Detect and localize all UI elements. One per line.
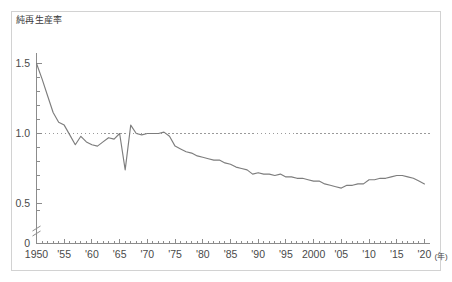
x-tick-label: '55 bbox=[55, 248, 73, 260]
x-axis-unit-label: (年) bbox=[434, 250, 447, 261]
x-tick-label: '20 bbox=[415, 248, 433, 260]
x-tick-label: 2000 bbox=[299, 248, 329, 260]
series-line-net-reproduction-rate bbox=[37, 64, 425, 189]
x-tick-label: '80 bbox=[194, 248, 212, 260]
y-tick-label: 1.5 bbox=[4, 57, 30, 69]
x-tick-label: '75 bbox=[166, 248, 184, 260]
chart-plot-area bbox=[0, 0, 452, 282]
y-tick-group bbox=[37, 64, 42, 211]
x-tick-label: '05 bbox=[332, 248, 350, 260]
x-tick-label: '70 bbox=[138, 248, 156, 260]
x-tick-label: '60 bbox=[83, 248, 101, 260]
axis-lines-group bbox=[37, 53, 431, 244]
x-tick-label: 1950 bbox=[22, 248, 52, 260]
y-tick-label: 0.5 bbox=[4, 197, 30, 209]
figure-container: 純再生産率 0.51.01.50 1950'55'60'65'70'75'80'… bbox=[0, 0, 452, 282]
x-tick-group bbox=[37, 239, 425, 244]
x-tick-label: '65 bbox=[111, 248, 129, 260]
x-tick-label: '85 bbox=[221, 248, 239, 260]
x-tick-label: '95 bbox=[277, 248, 295, 260]
y-tick-label: 1.0 bbox=[4, 127, 30, 139]
data-series-group bbox=[37, 64, 425, 189]
x-tick-label: '15 bbox=[388, 248, 406, 260]
x-tick-label: '90 bbox=[249, 248, 267, 260]
x-tick-label: '10 bbox=[360, 248, 378, 260]
